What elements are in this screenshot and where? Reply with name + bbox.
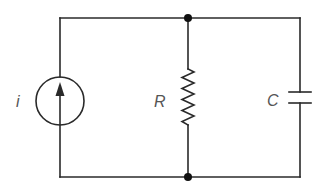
capacitor-label: C [267,92,279,109]
current-arrow-icon [56,82,65,96]
top-junction-node [184,14,192,22]
bottom-junction-node [184,173,192,181]
current-source-label: i [16,93,20,110]
current-source [36,77,84,125]
circuit-diagram: i R C [0,0,328,191]
resistor-label: R [154,93,166,110]
resistor-zigzag [182,69,194,125]
